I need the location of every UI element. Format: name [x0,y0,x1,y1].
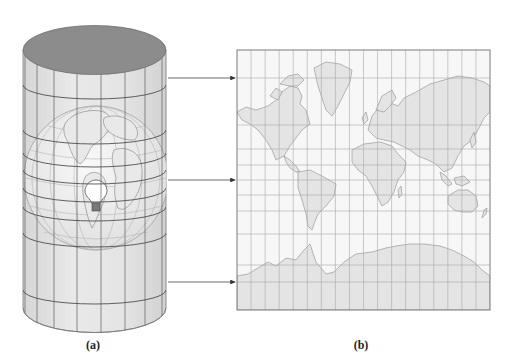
globe [24,106,168,250]
caption-panel-a: (a) [86,338,100,353]
projection-arrows [168,78,235,282]
map-projection-figure [0,0,506,356]
panel-a-cylinder-diagram [23,26,168,341]
panel-b-world-map [237,50,490,310]
cylinder-top-cap [23,26,166,75]
caption-panel-b: (b) [354,338,369,353]
